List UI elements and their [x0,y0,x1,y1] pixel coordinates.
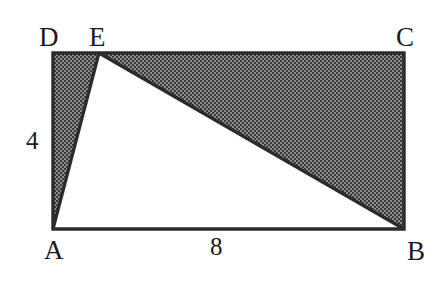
geometry-figure: D E C A B 4 8 [0,0,442,282]
vertex-label-E: E [89,24,106,51]
vertex-label-C: C [396,24,414,51]
vertex-label-A: A [44,237,64,264]
vertex-label-D: D [39,24,59,51]
side-length-label-ad: 4 [26,128,39,153]
vertex-label-B: B [407,238,425,265]
side-length-label-ab: 8 [210,234,223,259]
